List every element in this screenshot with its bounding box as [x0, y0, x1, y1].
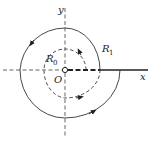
r0-label: R 0	[45, 53, 57, 67]
origin-label: O	[54, 74, 62, 85]
arrow-inner-bottom-icon	[76, 97, 81, 98]
x-axis-label: x	[140, 71, 146, 82]
diagram-canvas: y x O R 0 R 1	[0, 0, 151, 142]
origin-point	[62, 67, 67, 72]
arrow-inner-upper-right-icon	[79, 51, 81, 55]
r0-label-sub: 0	[53, 59, 57, 67]
y-axis-label: y	[57, 4, 64, 15]
arrow-outer-lower-right-icon	[89, 111, 94, 114]
arrow-outer-upper-left-icon	[31, 40, 34, 44]
r1-label: R 1	[101, 43, 113, 57]
spiral-contour-diagram: y x O R 0 R 1	[0, 0, 151, 142]
outer-contour-solid-spiral	[20, 28, 120, 118]
r1-label-sub: 1	[109, 49, 113, 57]
